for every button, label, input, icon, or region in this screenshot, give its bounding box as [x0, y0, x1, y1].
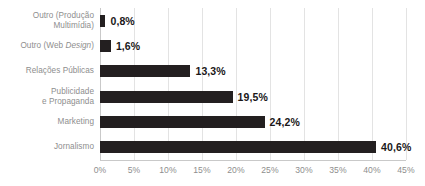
bar-and-value: 13,3% [100, 59, 406, 84]
bar-value-label: 1,6% [116, 40, 140, 52]
category-label: Outro (Web Design) [0, 41, 94, 51]
category-label: Jornalismo [0, 142, 94, 152]
bar-value-label: 19,5% [238, 91, 268, 103]
bar-value-label: 24,2% [270, 116, 300, 128]
bar-and-value: 19,5% [100, 84, 406, 109]
bar-value-label: 13,3% [195, 65, 225, 77]
bar [100, 15, 105, 27]
x-tick-label: 0% [94, 165, 107, 175]
category-label: Marketing [0, 117, 94, 127]
x-tick-label: 25% [261, 165, 279, 175]
x-tick-label: 10% [159, 165, 177, 175]
bar [100, 91, 233, 103]
bar-chart: Outro (ProduçãoMultimídia)0,8%Outro (Web… [0, 0, 425, 186]
category-label: Publicidadee Propaganda [0, 87, 94, 107]
x-axis-line [100, 160, 406, 161]
category-label: Outro (ProduçãoMultimídia) [0, 11, 94, 31]
x-tick-label: 20% [227, 165, 245, 175]
category-label: Relações Públicas [0, 66, 94, 76]
x-tick-label: 40% [363, 165, 381, 175]
x-tick-label: 35% [329, 165, 347, 175]
x-axis-tick-labels: 0%5%10%15%20%25%30%35%40%45% [100, 165, 406, 181]
bar-row: Marketing24,2% [0, 109, 425, 134]
x-tick-label: 30% [295, 165, 313, 175]
x-tick-label: 5% [128, 165, 141, 175]
bar [100, 65, 190, 77]
bar [100, 141, 376, 153]
bar-rows: Outro (ProduçãoMultimídia)0,8%Outro (Web… [0, 8, 425, 160]
bar-and-value: 1,6% [100, 33, 406, 58]
x-tick-label: 45% [397, 165, 415, 175]
bar-and-value: 24,2% [100, 109, 406, 134]
bar-value-label: 40,6% [381, 141, 411, 153]
bar-row: Outro (Web Design)1,6% [0, 33, 425, 58]
bar-row: Jornalismo40,6% [0, 135, 425, 160]
bar-and-value: 0,8% [100, 8, 406, 33]
x-tick-label: 15% [193, 165, 211, 175]
bar-row: Publicidadee Propaganda19,5% [0, 84, 425, 109]
bar [100, 40, 111, 52]
bar-row: Relações Públicas13,3% [0, 59, 425, 84]
bar-row: Outro (ProduçãoMultimídia)0,8% [0, 8, 425, 33]
bar [100, 116, 265, 128]
bar-and-value: 40,6% [100, 135, 406, 160]
bar-value-label: 0,8% [110, 15, 134, 27]
